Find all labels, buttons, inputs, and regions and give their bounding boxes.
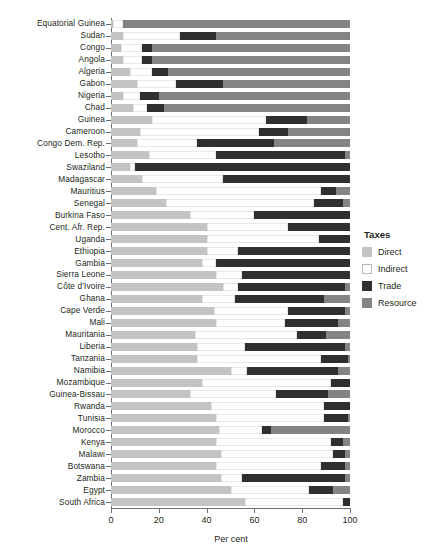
y-axis-label: Tanzania xyxy=(0,354,105,363)
bar-segment-indirect xyxy=(245,498,343,506)
y-axis-label: Egypt xyxy=(0,486,105,495)
y-axis-label: Cent. Afr. Rep. xyxy=(0,223,105,232)
bar-segment-trade xyxy=(324,402,350,410)
bar-segment-indirect xyxy=(133,104,147,112)
bar-segment-resource xyxy=(345,343,350,351)
bar-row xyxy=(111,116,350,124)
bar-segment-indirect xyxy=(197,343,245,351)
y-axis-tick xyxy=(106,179,111,180)
x-axis-tick xyxy=(159,509,160,513)
bar-segment-resource xyxy=(152,44,350,52)
legend-item-label: Direct xyxy=(378,247,402,257)
bar-segment-indirect xyxy=(152,116,267,124)
y-axis-label: Malawi xyxy=(0,450,105,459)
bar-segment-trade xyxy=(176,80,224,88)
bar-row xyxy=(111,474,350,482)
bar-segment-indirect xyxy=(137,80,175,88)
y-axis-labels: Equatorial GuineaSudanCongoAngolaAlgeria… xyxy=(0,18,105,508)
bar-segment-direct xyxy=(111,498,245,506)
y-axis-tick xyxy=(106,120,111,121)
x-axis-tick xyxy=(207,509,208,513)
y-axis-label: Mauritania xyxy=(0,330,105,339)
bar-segment-indirect xyxy=(231,486,310,494)
bar-segment-direct xyxy=(111,175,142,183)
y-axis-tick xyxy=(106,203,111,204)
y-axis-tick xyxy=(106,311,111,312)
bar-segment-direct xyxy=(111,104,133,112)
bar-segment-direct xyxy=(111,199,166,207)
y-axis-label: Nigeria xyxy=(0,91,105,100)
bar-segment-direct xyxy=(111,486,231,494)
y-axis-label: Côte d’Ivoire xyxy=(0,282,105,291)
bar-row xyxy=(111,390,350,398)
bar-segment-resource xyxy=(345,462,350,470)
y-axis-label: Guinea-Bissau xyxy=(0,390,105,399)
bar-segment-resource xyxy=(338,319,350,327)
bar-segment-resource xyxy=(164,104,350,112)
bar-segment-trade xyxy=(324,414,348,422)
bar-segment-indirect xyxy=(214,307,288,315)
bar-segment-trade xyxy=(333,450,345,458)
legend-item-resource[interactable]: Resource xyxy=(362,298,436,308)
legend-item-label: Indirect xyxy=(378,264,408,274)
bar-segment-resource xyxy=(345,450,350,458)
bar-segment-resource xyxy=(338,367,350,375)
bar-row xyxy=(111,319,350,327)
bar-segment-indirect xyxy=(149,151,216,159)
y-axis-label: Tunisia xyxy=(0,414,105,423)
bar-segment-trade xyxy=(321,462,345,470)
bar-row xyxy=(111,414,350,422)
bar-segment-indirect xyxy=(156,187,321,195)
y-axis-tick xyxy=(106,60,111,61)
bar-segment-trade xyxy=(288,223,350,231)
y-axis-tick xyxy=(106,490,111,491)
y-axis-label: Algeria xyxy=(0,67,105,76)
bar-segment-trade xyxy=(321,187,335,195)
bar-segment-indirect xyxy=(221,450,333,458)
bar-segment-direct xyxy=(111,450,221,458)
bar-segment-trade xyxy=(285,319,338,327)
bar-row xyxy=(111,283,350,291)
bar-segment-indirect xyxy=(142,175,223,183)
y-axis-label: Morocco xyxy=(0,426,105,435)
y-axis-tick xyxy=(106,24,111,25)
y-axis-tick xyxy=(106,323,111,324)
bar-segment-indirect xyxy=(216,462,321,470)
bar-segment-resource xyxy=(159,92,350,100)
bar-row xyxy=(111,379,350,387)
y-axis-label: Ethiopia xyxy=(0,247,105,256)
y-axis-label: Mali xyxy=(0,318,105,327)
legend-item-direct[interactable]: Direct xyxy=(362,247,436,257)
y-axis-label: Congo xyxy=(0,43,105,52)
bar-segment-trade xyxy=(343,498,350,506)
stacked-bar-chart: Equatorial GuineaSudanCongoAngolaAlgeria… xyxy=(0,0,437,558)
plot-area xyxy=(111,18,350,508)
legend-item-indirect[interactable]: Indirect xyxy=(362,264,436,274)
bar-segment-trade xyxy=(197,139,273,147)
y-axis-tick xyxy=(106,191,111,192)
bar-segment-direct xyxy=(111,235,207,243)
y-axis-tick xyxy=(106,430,111,431)
bar-segment-resource xyxy=(328,390,350,398)
bar-segment-trade xyxy=(152,68,169,76)
bar-segment-trade xyxy=(262,426,272,434)
bar-segment-direct xyxy=(111,414,216,422)
bar-segment-direct xyxy=(111,139,137,147)
legend-item-label: Resource xyxy=(378,298,417,308)
bar-row xyxy=(111,56,350,64)
bar-row xyxy=(111,450,350,458)
bar-segment-trade xyxy=(314,199,343,207)
bar-segment-indirect xyxy=(216,438,331,446)
bar-segment-resource xyxy=(348,355,350,363)
bar-row xyxy=(111,68,350,76)
bar-segment-resource xyxy=(345,283,350,291)
x-axis-tick-label: 80 xyxy=(282,515,322,525)
y-axis-label: Mozambique xyxy=(0,378,105,387)
y-axis-tick xyxy=(106,108,111,109)
bar-segment-trade xyxy=(223,175,350,183)
legend-item-trade[interactable]: Trade xyxy=(362,281,436,291)
bar-segment-direct xyxy=(111,271,216,279)
bar-segment-trade xyxy=(238,247,350,255)
bar-segment-indirect xyxy=(221,474,243,482)
y-axis-tick xyxy=(106,215,111,216)
